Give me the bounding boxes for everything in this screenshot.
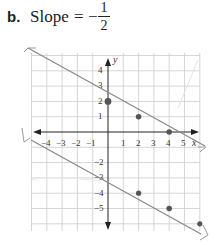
y-tick: 4 — [98, 65, 103, 75]
point-2-1 — [136, 114, 142, 120]
line-upper-arrow-right-icon — [198, 147, 206, 152]
y-tick: 1 — [98, 111, 103, 121]
point-2-neg4 — [136, 191, 141, 196]
x-tick-labels: −4 −3 −2 −1 1 2 3 4 5 — [41, 138, 186, 148]
y-axis-arrow-up-icon — [105, 58, 111, 66]
point-0-2 — [105, 98, 112, 105]
line-lower-arrow-left-icon — [22, 128, 30, 142]
y-axis-label: y — [112, 54, 118, 65]
point-4-neg5 — [166, 206, 172, 212]
point-4-0 — [166, 129, 172, 135]
x-axis-arrow-left-icon — [33, 129, 41, 135]
line-lower — [31, 140, 201, 234]
y-tick: −5 — [94, 203, 104, 213]
x-tick: −1 — [86, 138, 96, 148]
x-tick: 1 — [121, 138, 126, 148]
x-tick: 2 — [136, 138, 141, 148]
line-lower-arrow-right-icon — [200, 225, 208, 240]
x-tick: 4 — [166, 138, 171, 148]
x-axis-arrow-right-icon — [191, 129, 199, 135]
y-axis-arrow-down-icon — [105, 222, 111, 230]
y-tick: 2 — [98, 96, 103, 106]
x-tick: −3 — [56, 138, 66, 148]
x-tick: 5 — [181, 138, 186, 148]
y-tick: −2 — [94, 157, 104, 167]
pencil-mark — [178, 60, 198, 108]
x-tick: −2 — [71, 138, 81, 148]
y-tick: −4 — [94, 188, 104, 198]
x-tick: 3 — [151, 138, 156, 148]
point-6-neg6 — [197, 221, 202, 226]
coordinate-graph: y x −4 −3 −2 −1 1 2 3 4 5 4 3 2 1 −2 −3 … — [0, 0, 217, 245]
